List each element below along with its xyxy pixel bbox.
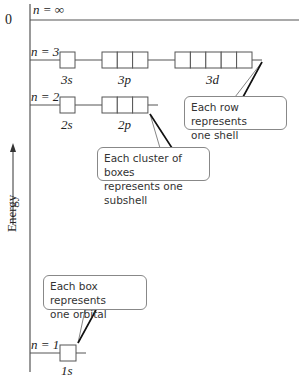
subshell-label-2p: 2p	[118, 118, 131, 131]
energy-axis-label: Energy	[4, 195, 20, 232]
orbital-box-2s	[60, 97, 75, 113]
subshell-label-3p: 3p	[118, 73, 131, 86]
subshell-label-3d: 3d	[206, 73, 219, 86]
subshell-label-1s: 1s	[61, 364, 73, 377]
subshell-label-3s: 3s	[61, 73, 73, 86]
n2-label: n = 2	[31, 90, 59, 103]
zero-energy-label: 0	[5, 13, 12, 27]
n-infinity-label: n = ∞	[33, 3, 64, 16]
energy-arrow-head	[10, 143, 16, 152]
n3-label: n = 3	[31, 45, 59, 58]
shell-callout-line1: Each row represents	[191, 100, 280, 128]
orbital-boxes-3d	[175, 52, 252, 68]
shell-callout-line2: one shell	[191, 128, 280, 142]
subshell-label-2s: 2s	[61, 118, 73, 131]
orbital-boxes-2p	[102, 97, 148, 113]
subshell-callout-line2: represents one subshell	[104, 179, 203, 207]
subshell-callout: Each cluster of boxes represents one sub…	[97, 147, 210, 181]
orbital-callout-line1: Each box represents	[50, 279, 140, 307]
orbital-callout: Each box represents one orbital	[43, 275, 147, 310]
orbital-box-3s	[60, 52, 75, 68]
orbital-boxes-3p	[102, 52, 148, 68]
n1-label: n = 1	[31, 338, 59, 351]
orbital-callout-line2: one orbital	[50, 307, 140, 321]
shell-callout: Each row represents one shell	[184, 96, 287, 130]
subshell-callout-line1: Each cluster of boxes	[104, 151, 203, 179]
orbital-box-1s	[60, 345, 76, 361]
